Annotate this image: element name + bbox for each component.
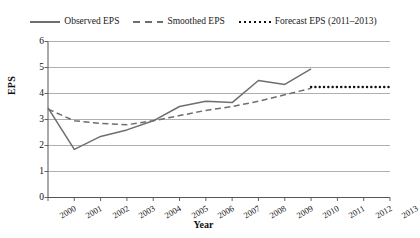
y-axis-tick-marks — [45, 42, 49, 198]
series-line — [48, 69, 311, 150]
data-series-group — [48, 69, 390, 150]
grid-lines — [48, 42, 390, 198]
x-axis-tick-marks — [48, 198, 390, 202]
